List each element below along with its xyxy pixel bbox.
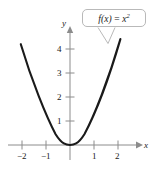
function-label-callout: f(x) = x2 <box>82 9 146 27</box>
callout-leader-line <box>98 28 115 44</box>
y-axis-arrowhead <box>67 26 73 33</box>
function-name: f(x) <box>98 14 112 24</box>
parabola-curve <box>21 39 121 145</box>
y-tick-label-1: 1 <box>57 117 62 126</box>
expression-exponent: 2 <box>127 12 130 19</box>
x-tick-label-1: 1 <box>92 152 97 161</box>
y-tick-label-4: 4 <box>57 45 62 54</box>
y-axis-label: y <box>62 19 66 28</box>
function-label-text: f(x) = x2 <box>98 12 130 24</box>
x-axis-label: x <box>144 141 148 150</box>
x-tick-label-minus1: −1 <box>41 152 51 161</box>
x-tick-label-minus2: −2 <box>17 152 27 161</box>
graph-figure: f(x) = x2 x y −2 −1 1 2 1 2 3 4 <box>0 0 155 169</box>
y-tick-label-3: 3 <box>57 69 62 78</box>
x-tick-label-2: 2 <box>115 152 120 161</box>
x-axis-arrowhead <box>136 142 143 149</box>
y-tick-label-2: 2 <box>57 93 62 102</box>
